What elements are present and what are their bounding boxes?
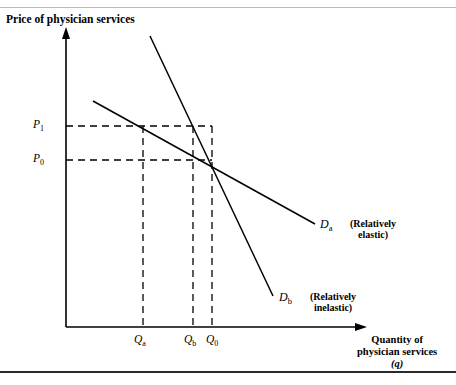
x-axis: [66, 323, 367, 331]
tick-label-qa: Qa: [134, 333, 146, 349]
tick-label-q0: Q0: [206, 333, 218, 349]
tick-label-qb-sub: b: [192, 339, 196, 348]
tick-label-p1: P1: [33, 118, 44, 134]
curve-note-db-line2: inelastic): [310, 302, 356, 313]
curve-note-da-line2: elastic): [350, 229, 396, 240]
demand-curve-plot: [0, 0, 456, 385]
tick-label-p0: P0: [33, 152, 44, 168]
x-axis-title-line2: physician services: [357, 346, 437, 358]
figure-container: Price of physician services Quantity of …: [0, 0, 456, 385]
curve-note-db-line1: (Relatively: [310, 291, 356, 302]
demand-curve-db: [150, 36, 273, 296]
x-axis-title-line3: (q): [357, 358, 437, 370]
demand-curve-da: [93, 101, 315, 224]
curve-label-db-sub: b: [288, 296, 292, 306]
curve-label-da: Da: [320, 218, 332, 234]
tick-label-qa-sub: a: [142, 339, 146, 348]
x-axis-title: Quantity of physician services (q): [357, 334, 437, 369]
curve-label-db-text: D: [279, 290, 288, 304]
tick-label-p1-sub: 1: [40, 124, 44, 133]
tick-label-qb: Qb: [184, 333, 196, 349]
quantity-guide-lines: [143, 126, 212, 327]
curve-label-da-text: D: [320, 217, 329, 231]
tick-label-p0-text: P: [33, 152, 40, 164]
tick-label-p0-sub: 0: [40, 158, 44, 167]
curve-note-da: (Relatively elastic): [350, 218, 396, 240]
curve-note-da-line1: (Relatively: [350, 218, 396, 229]
x-axis-title-line1: Quantity of: [357, 334, 437, 346]
y-axis: [62, 27, 70, 327]
tick-label-p1-text: P: [33, 118, 40, 130]
y-axis-title: Price of physician services: [6, 13, 135, 26]
curve-note-db: (Relatively inelastic): [310, 291, 356, 313]
curve-label-da-sub: a: [329, 223, 333, 233]
curve-label-db: Db: [279, 291, 292, 307]
tick-label-q0-sub: 0: [214, 339, 218, 348]
